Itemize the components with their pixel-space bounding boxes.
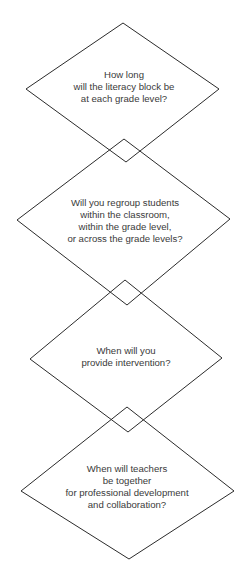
diamond-4-label: When will teachers be together for profe… (57, 463, 197, 511)
diamond-3-line-2: provide intervention? (66, 357, 186, 369)
diamond-4-line-4: and collaboration? (57, 499, 197, 511)
diamond-1-label: How long will the literacy block be at e… (62, 69, 186, 105)
diamond-2-line-3: within the grade level, (58, 221, 192, 233)
diamond-4-line-2: be together (57, 475, 197, 487)
diamond-1-line-3: at each grade level? (62, 93, 186, 105)
diamond-3-line-1: When will you (66, 345, 186, 357)
diamond-1-line-2: will the literacy block be (62, 81, 186, 93)
diamond-4-line-1: When will teachers (57, 463, 197, 475)
diamond-3-label: When will you provide intervention? (66, 345, 186, 369)
diamond-2-line-2: within the classroom, (58, 209, 192, 221)
diamond-1-line-1: How long (62, 69, 186, 81)
diamond-2-label: Will you regroup students within the cla… (58, 197, 192, 245)
diamond-2-line-4: or across the grade levels? (58, 233, 192, 245)
diamond-2-line-1: Will you regroup students (58, 197, 192, 209)
diamond-4-line-3: for professional development (57, 487, 197, 499)
